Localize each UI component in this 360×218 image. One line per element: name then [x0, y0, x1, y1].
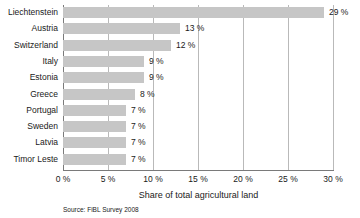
- bar: [63, 23, 180, 34]
- bar-row: 29 %: [63, 5, 333, 21]
- bar-value-label: 7 %: [131, 136, 146, 148]
- bar: [63, 72, 144, 83]
- bar: [63, 40, 171, 51]
- bar-row: 9 %: [63, 70, 333, 86]
- bar-chart: 29 %13 %12 %9 %9 %8 %7 %7 %7 %7 % Liecht…: [0, 0, 360, 218]
- category-label: Greece: [0, 88, 58, 100]
- bar: [63, 89, 135, 100]
- category-label: Switzerland: [0, 39, 58, 51]
- x-tick-label: 25 %: [271, 174, 305, 185]
- bar: [63, 154, 126, 165]
- bar-row: 7 %: [63, 119, 333, 135]
- source-note: Source: FiBL Survey 2008: [63, 205, 139, 214]
- x-tick-label: 0 %: [46, 174, 80, 185]
- bar-row: 8 %: [63, 87, 333, 103]
- bar-value-label: 7 %: [131, 120, 146, 132]
- bar-row: 7 %: [63, 152, 333, 168]
- bar-row: 13 %: [63, 21, 333, 37]
- x-tick-label: 15 %: [181, 174, 215, 185]
- bar-value-label: 29 %: [329, 6, 348, 18]
- plot-area: 29 %13 %12 %9 %9 %8 %7 %7 %7 %7 %: [63, 5, 333, 170]
- bar: [63, 121, 126, 132]
- bar: [63, 56, 144, 67]
- bar-value-label: 9 %: [149, 55, 164, 67]
- category-label: Liechtenstein: [0, 6, 58, 18]
- category-label: Portugal: [0, 104, 58, 116]
- bar-value-label: 7 %: [131, 153, 146, 165]
- x-tick-label: 20 %: [226, 174, 260, 185]
- bar-value-label: 8 %: [140, 88, 155, 100]
- bar: [63, 105, 126, 116]
- bar-value-label: 7 %: [131, 104, 146, 116]
- x-tick-label: 5 %: [91, 174, 125, 185]
- gridline: [333, 5, 334, 170]
- category-label: Italy: [0, 55, 58, 67]
- bar-value-label: 12 %: [176, 39, 195, 51]
- category-label: Austria: [0, 22, 58, 34]
- bar-row: 7 %: [63, 135, 333, 151]
- bar-row: 12 %: [63, 38, 333, 54]
- x-tick-label: 10 %: [136, 174, 170, 185]
- category-label: Timor Leste: [0, 153, 58, 165]
- bar-row: 7 %: [63, 103, 333, 119]
- bar-row: 9 %: [63, 54, 333, 70]
- category-label: Sweden: [0, 120, 58, 132]
- x-axis-line: [63, 170, 334, 171]
- category-label: Estonia: [0, 71, 58, 83]
- bar-value-label: 13 %: [185, 22, 204, 34]
- bar: [63, 7, 324, 18]
- bar: [63, 137, 126, 148]
- category-label: Latvia: [0, 136, 58, 148]
- bar-value-label: 9 %: [149, 71, 164, 83]
- x-tick-label: 30 %: [316, 174, 350, 185]
- x-axis-title: Share of total agricultural land: [63, 189, 334, 201]
